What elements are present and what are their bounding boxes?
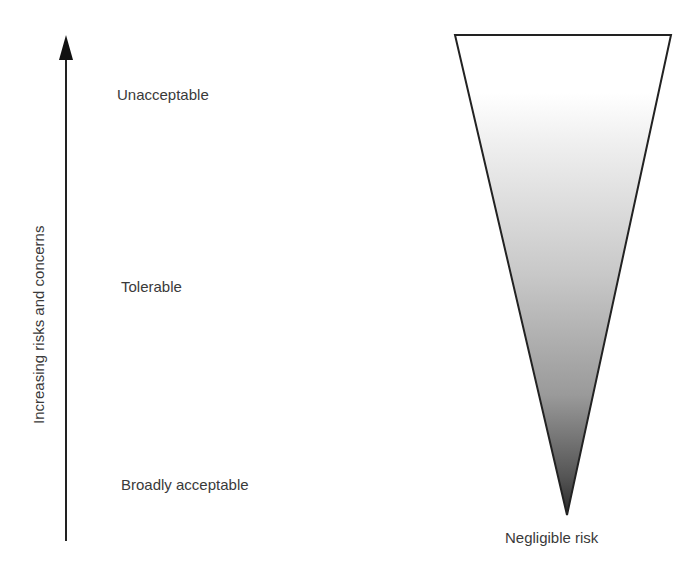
axis-label: Increasing risks and concerns — [30, 226, 47, 424]
apex-label-negligible-risk: Negligible risk — [505, 529, 598, 546]
level-tolerable: Tolerable — [121, 278, 182, 295]
risk-triangle — [455, 35, 671, 515]
level-unacceptable: Unacceptable — [117, 86, 209, 103]
arrow-head-icon — [59, 35, 73, 60]
increasing-risk-arrow — [59, 35, 73, 541]
level-broadly-acceptable: Broadly acceptable — [121, 476, 249, 493]
risk-diagram — [0, 0, 697, 579]
